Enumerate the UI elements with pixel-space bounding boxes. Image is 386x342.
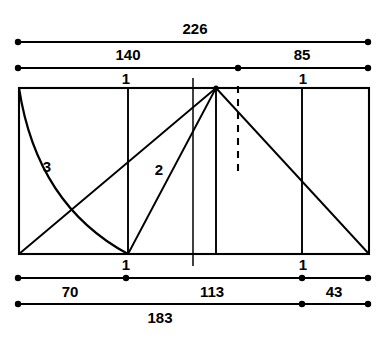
dimension-140-85-middle-dot xyxy=(235,65,241,71)
dimension-226-right-dot xyxy=(365,39,371,45)
dimension-226-label: 226 xyxy=(182,20,207,37)
station-mark-bottom-left: 1 xyxy=(122,256,130,273)
main-rectangle xyxy=(19,88,369,254)
dimension-183-label: 183 xyxy=(147,309,172,326)
curve-three-arc xyxy=(19,88,128,254)
dimension-226-left-dot xyxy=(15,39,21,45)
dimension-183: 183 xyxy=(15,301,371,326)
station-mark-top-right: 1 xyxy=(299,70,307,87)
dimension-183-middle-dot xyxy=(299,301,305,307)
dimension-43-label: 43 xyxy=(326,283,343,300)
dimension-113-43-divider-dot xyxy=(299,275,305,281)
diagram-root: 226 140 85 1 1 3 2 xyxy=(0,0,386,342)
dimension-70-113-divider-dot xyxy=(123,275,129,281)
curve-three-label: 3 xyxy=(43,158,51,175)
curve-two-label: 2 xyxy=(155,161,163,178)
dimension-183-right-dot xyxy=(365,301,371,307)
dimension-70-113-43: 70 113 43 xyxy=(15,275,371,300)
dimension-183-left-dot xyxy=(15,301,21,307)
dimension-140-85: 140 85 xyxy=(15,46,371,71)
station-mark-top-left: 1 xyxy=(122,70,130,87)
dimension-diagram: 226 140 85 1 1 3 2 xyxy=(0,0,386,342)
dimension-70-label: 70 xyxy=(62,283,79,300)
apex-point xyxy=(213,85,218,90)
dimension-140-label: 140 xyxy=(115,46,140,63)
curve-two-line xyxy=(128,88,216,254)
dimension-113-label: 113 xyxy=(200,283,224,300)
dimension-70-left-dot xyxy=(15,275,21,281)
dimension-43-right-dot xyxy=(365,275,371,281)
dimension-226: 226 xyxy=(15,20,371,45)
dimension-140-left-dot xyxy=(15,65,21,71)
dimension-85-label: 85 xyxy=(294,46,311,63)
dimension-85-right-dot xyxy=(365,65,371,71)
station-mark-bottom-right: 1 xyxy=(299,256,307,273)
